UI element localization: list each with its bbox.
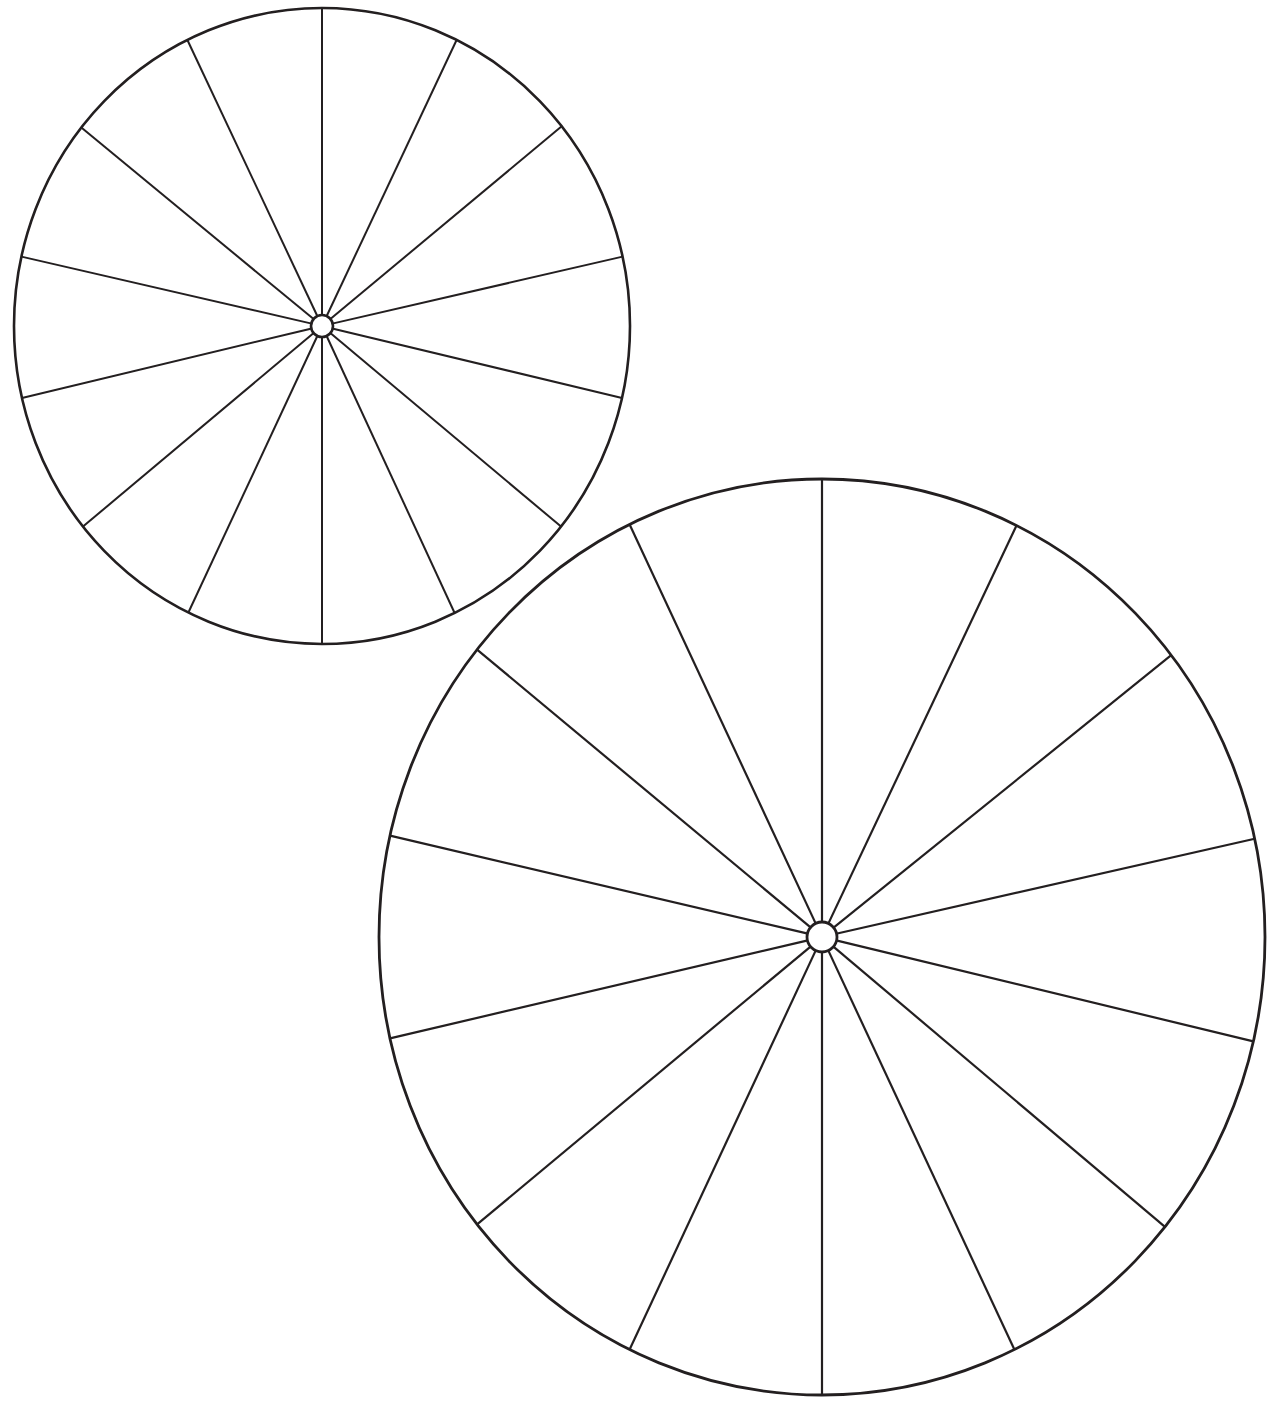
small-wheel[interactable] xyxy=(14,8,630,644)
large-wheel-hub xyxy=(807,922,837,952)
figure-svg xyxy=(0,0,1273,1404)
small-wheel-hub xyxy=(311,315,333,337)
drawing-canvas: Two spoked wheel diagrams xyxy=(0,0,1273,1404)
large-wheel[interactable] xyxy=(379,479,1265,1395)
